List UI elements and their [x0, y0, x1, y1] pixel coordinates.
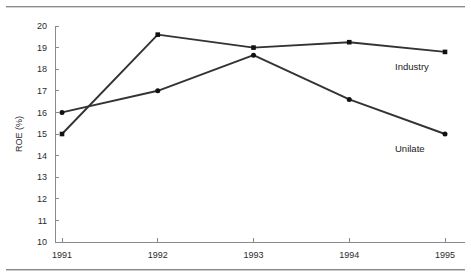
- bottom-divider-rule-shadow: [6, 270, 465, 271]
- series-label-industry: Industry: [395, 61, 429, 72]
- y-axis-tick-label: 18: [37, 64, 47, 74]
- x-axis-tick-label-group: 19911992199319941995: [52, 250, 455, 260]
- data-point-industry: [251, 45, 256, 50]
- x-axis-tick-label: 1992: [148, 250, 168, 260]
- x-axis-tick-label: 1993: [243, 250, 263, 260]
- data-point-industry: [443, 50, 448, 55]
- x-axis-tick-label: 1991: [52, 250, 72, 260]
- series-marker-group: [60, 32, 448, 136]
- data-point-industry: [155, 32, 160, 37]
- y-axis-tick-label: 12: [37, 194, 47, 204]
- data-point-unilate: [251, 53, 256, 58]
- y-axis-title: ROE (%): [14, 116, 24, 152]
- x-axis-tick-label: 1995: [435, 250, 455, 260]
- data-point-unilate: [60, 110, 65, 115]
- data-point-unilate: [155, 88, 160, 93]
- series-inline-label-group: IndustryUnilate: [395, 61, 429, 154]
- data-point-industry: [60, 132, 65, 137]
- y-axis-tick-label: 10: [37, 237, 47, 247]
- data-point-unilate: [443, 132, 448, 137]
- y-axis-tick-label: 14: [37, 151, 47, 161]
- series-line-unilate: [62, 55, 445, 134]
- y-axis-tick-label: 13: [37, 172, 47, 182]
- y-axis-tick-label: 16: [37, 108, 47, 118]
- y-axis-tick-label: 11: [38, 216, 47, 226]
- line-chart-plot: 1011121314151617181920 19911992199319941…: [0, 0, 471, 280]
- chart-svg: 1011121314151617181920 19911992199319941…: [0, 0, 471, 280]
- y-axis-tick-label: 19: [37, 43, 47, 53]
- y-axis-tick-label-group: 1011121314151617181920: [37, 21, 47, 247]
- data-point-unilate: [347, 97, 352, 102]
- y-axis-tick-label: 20: [37, 21, 47, 31]
- series-label-unilate: Unilate: [395, 143, 425, 154]
- x-axis-tick-mark-group: [62, 238, 445, 242]
- y-axis-tick-mark-group: [55, 26, 59, 242]
- y-axis-tick-label: 17: [37, 86, 47, 96]
- x-axis-tick-label: 1994: [339, 250, 359, 260]
- data-point-industry: [347, 40, 352, 45]
- chart-figure: 1011121314151617181920 19911992199319941…: [0, 0, 471, 280]
- y-axis-tick-label: 15: [37, 129, 47, 139]
